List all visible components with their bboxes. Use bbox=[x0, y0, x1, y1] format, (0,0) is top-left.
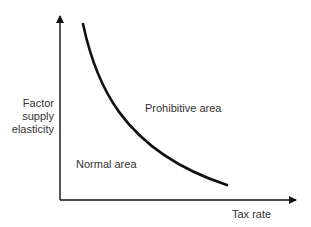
normal-area-label: Normal area bbox=[76, 158, 137, 171]
x-axis-label: Tax rate bbox=[232, 208, 271, 221]
prohibitive-area-label: Prohibitive area bbox=[145, 102, 221, 115]
y-axis-label-line3: elasticity bbox=[2, 123, 54, 136]
y-axis-label-line2: supply bbox=[2, 110, 54, 123]
y-axis-label-line1: Factor bbox=[2, 97, 54, 110]
y-axis-label: Factor supply elasticity bbox=[2, 97, 54, 136]
